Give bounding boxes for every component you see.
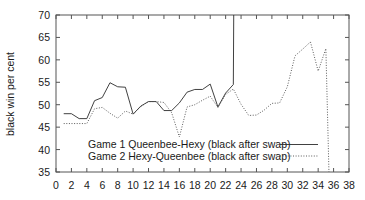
- legend-label-game1: Game 1 Queenbee-Hexy (black after swap): [88, 138, 291, 150]
- y-tick-label: 55: [38, 76, 50, 88]
- x-tick-label: 2: [68, 179, 74, 191]
- line-chart: black win per cent 70 65 60 55 50 45 40 …: [0, 0, 365, 200]
- x-axis-tick-labels: 0 2 4 6 8 10 12 14 16 18 20 22 24 26 28 …: [53, 179, 355, 191]
- series-line-game1: [64, 15, 234, 119]
- y-tick-label: 40: [38, 144, 50, 156]
- x-tick-label: 38: [343, 179, 355, 191]
- x-tick-label: 6: [99, 179, 105, 191]
- x-tick-label: 36: [328, 179, 340, 191]
- x-tick-label: 26: [251, 179, 263, 191]
- x-tick-label: 10: [127, 179, 139, 191]
- y-tick-label: 70: [38, 9, 50, 21]
- y-tick-label: 45: [38, 121, 50, 133]
- x-tick-label: 28: [266, 179, 278, 191]
- x-tick-label: 4: [84, 179, 90, 191]
- y-axis-label: black win per cent: [4, 52, 16, 136]
- y-tick-label: 50: [38, 99, 50, 111]
- x-tick-label: 20: [204, 179, 216, 191]
- legend-label-game2: Game 2 Hexy-Queenbee (black after swap): [88, 150, 291, 162]
- y-tick-label: 60: [38, 54, 50, 66]
- y-tick-label: 65: [38, 31, 50, 43]
- chart-canvas: black win per cent 70 65 60 55 50 45 40 …: [0, 0, 365, 200]
- y-axis-tick-labels: 70 65 60 55 50 45 40 35: [38, 9, 50, 178]
- x-tick-label: 34: [312, 179, 324, 191]
- x-tick-label: 16: [174, 179, 186, 191]
- x-tick-label: 14: [158, 179, 170, 191]
- x-tick-label: 18: [189, 179, 201, 191]
- x-tick-label: 24: [235, 179, 247, 191]
- x-tick-label: 32: [297, 179, 309, 191]
- x-tick-label: 8: [115, 179, 121, 191]
- legend: Game 1 Queenbee-Hexy (black after swap) …: [88, 138, 318, 162]
- x-tick-label: 30: [281, 179, 293, 191]
- y-tick-label: 35: [38, 166, 50, 178]
- x-tick-label: 12: [143, 179, 155, 191]
- x-tick-label: 0: [53, 179, 59, 191]
- x-tick-label: 22: [220, 179, 232, 191]
